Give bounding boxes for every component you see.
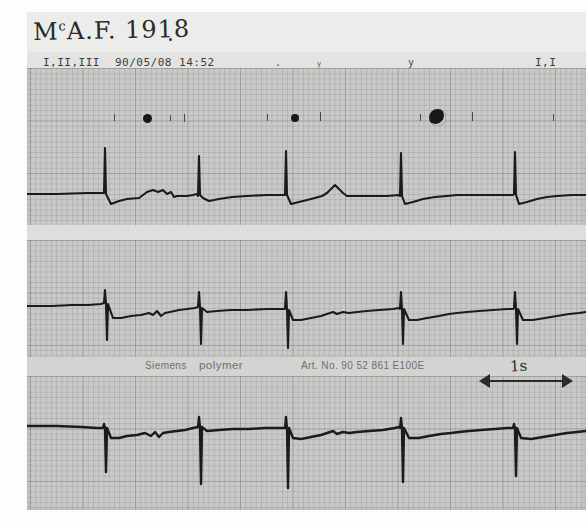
scale-line <box>486 380 566 382</box>
event-ticklet-7 <box>472 112 473 121</box>
event-ticklet-8 <box>553 114 554 121</box>
handwriting-dot <box>169 38 172 41</box>
beat-marker-ring <box>429 109 446 126</box>
event-ticklet-1 <box>114 114 115 121</box>
ecg-paper-sheet: McA.F. 1918 I,II,III 90/05/08 14:52 . y … <box>27 12 586 510</box>
beat-marker-dot-1 <box>143 114 152 123</box>
arrow-left-icon <box>479 374 490 388</box>
manufacturer-brand: polymer <box>199 360 243 371</box>
trace-lead-3-waveform <box>27 376 586 510</box>
handwriting-prefix: M <box>33 17 59 46</box>
printed-header-band <box>27 52 586 68</box>
manufacturer-name: Siemens <box>145 360 187 371</box>
trace-gap-band-1 <box>27 225 586 240</box>
handwritten-patient-id: McA.F. 1918 <box>33 15 191 46</box>
trace-lead-1-waveform <box>27 68 586 225</box>
event-ticklet-4 <box>267 114 268 121</box>
handwriting-rest: A.F. 1918 <box>67 15 191 46</box>
trace-lead-2 <box>27 240 586 357</box>
header-tick-a: . <box>275 57 281 68</box>
article-number: Art. No. 90 52 861 E100E <box>301 360 425 371</box>
handwriting-superscript: c <box>58 18 67 33</box>
trace-lead-3 <box>27 376 586 510</box>
event-ticklet-2 <box>170 115 171 121</box>
event-ticklet-6 <box>420 114 421 121</box>
beat-marker-dot-2 <box>291 114 299 122</box>
trace-lead-2-waveform <box>27 240 586 357</box>
header-tick-c: y <box>408 57 414 68</box>
event-ticklet-3 <box>184 114 185 122</box>
arrow-right-icon <box>562 374 573 388</box>
trace-lead-1 <box>27 68 586 225</box>
event-ticklet-5 <box>320 112 321 121</box>
scale-label: 1s <box>510 357 528 376</box>
header-tick-b: y <box>317 60 321 68</box>
time-scale-bar: 1s <box>482 360 570 390</box>
scanned-ecg-image: McA.F. 1918 I,II,III 90/05/08 14:52 . y … <box>0 0 586 528</box>
